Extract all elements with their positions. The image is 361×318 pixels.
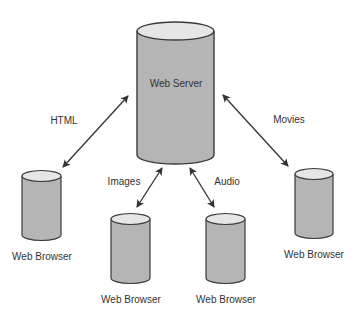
arrow-movies <box>223 95 288 166</box>
link-label-html: HTML <box>50 115 77 126</box>
web-browser-label-4: Web Browser <box>284 249 344 260</box>
web-browser-cylinder-2 <box>111 214 150 284</box>
arrow-images <box>137 168 162 207</box>
link-label-movies: Movies <box>273 114 305 125</box>
web-browser-label-1: Web Browser <box>12 251 72 262</box>
web-browser-label-2: Web Browser <box>101 294 161 305</box>
web-browser-label-3: Web Browser <box>196 294 256 305</box>
web-browser-cylinder-3 <box>206 214 245 284</box>
arrow-html <box>63 96 128 167</box>
arrow-audio <box>190 168 214 207</box>
client-server-diagram: Web Server HTML Images Audio Movies Web … <box>0 0 361 318</box>
web-browser-cylinder-4 <box>295 169 333 239</box>
diagram-shapes <box>0 0 361 318</box>
link-label-images: Images <box>108 176 141 187</box>
link-label-audio: Audio <box>214 176 240 187</box>
web-server-label: Web Server <box>150 78 203 89</box>
web-browser-cylinder-1 <box>22 171 61 241</box>
web-server-cylinder <box>137 22 214 164</box>
